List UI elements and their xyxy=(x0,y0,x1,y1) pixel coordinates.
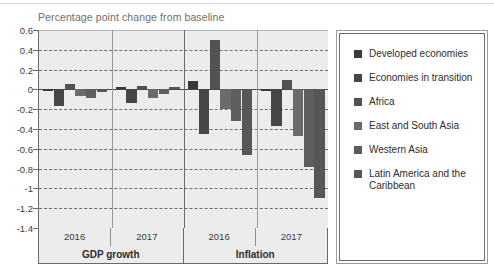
legend-item-label: Latin America and the Caribbean xyxy=(369,168,473,192)
y-axis-tick-label: -0.2 xyxy=(17,104,33,115)
legend-swatch-icon xyxy=(354,170,362,178)
bar xyxy=(65,84,75,89)
legend-item[interactable]: Western Asia xyxy=(354,144,473,156)
bar xyxy=(54,89,64,106)
bar xyxy=(75,89,85,96)
legend-swatch-icon xyxy=(354,50,362,58)
bar xyxy=(231,89,241,121)
legend-item[interactable]: Economies in transition xyxy=(354,72,473,84)
x-axis-group-2: 20162017Inflation xyxy=(183,228,328,263)
y-axis-tick-label: -1 xyxy=(25,183,33,194)
bar xyxy=(148,89,158,98)
y-axis-tick-label: -1.2 xyxy=(17,203,33,214)
y-axis: 0.60.40.20-0.2-0.4-0.6-0.8-1-1.2-1.4 xyxy=(0,30,33,228)
x-axis-year-label: 2016 xyxy=(184,228,255,246)
chart-figure: Percentage point change from baseline 0.… xyxy=(0,0,494,275)
legend-swatch-icon xyxy=(354,122,362,130)
legend-swatch-icon xyxy=(354,74,362,82)
x-axis-group-label: Inflation xyxy=(184,246,328,264)
legend-item-label: Developed economies xyxy=(369,48,468,60)
bar xyxy=(314,89,324,198)
x-axis-group-label: GDP growth xyxy=(39,246,183,264)
bar xyxy=(169,87,179,89)
legend-item[interactable]: East and South Asia xyxy=(354,120,473,132)
bar xyxy=(210,40,220,90)
x-axis-year-label: 2016 xyxy=(39,228,110,246)
legend-item[interactable]: Developed economies xyxy=(354,48,473,60)
chart-title: Percentage point change from baseline xyxy=(38,11,224,23)
bar xyxy=(282,80,292,90)
bar xyxy=(242,89,252,154)
legend-item-label: Africa xyxy=(369,96,395,108)
bar xyxy=(293,89,303,136)
y-axis-tick-label: -0.6 xyxy=(17,143,33,154)
legend-item-label: Western Asia xyxy=(369,144,428,156)
y-axis-tick-label: -0.4 xyxy=(17,124,33,135)
bar xyxy=(126,89,136,103)
x-axis-group-1: 20162017GDP growth xyxy=(39,228,183,263)
group-separator xyxy=(257,30,258,228)
bar xyxy=(261,89,271,90)
group-separator xyxy=(112,30,113,228)
x-axis-year-label: 2017 xyxy=(110,228,182,246)
bar xyxy=(97,89,107,92)
bar xyxy=(271,89,281,126)
y-axis-tick-label: -0.8 xyxy=(17,163,33,174)
legend-item[interactable]: Latin America and the Caribbean xyxy=(354,168,473,192)
bar xyxy=(304,89,314,166)
legend-swatch-icon xyxy=(354,98,362,106)
bar xyxy=(220,89,230,109)
legend-item-label: East and South Asia xyxy=(369,120,459,132)
y-axis-tick-label: 0.2 xyxy=(20,64,33,75)
legend-swatch-icon xyxy=(354,146,362,154)
bar xyxy=(43,89,53,90)
bar xyxy=(159,89,169,94)
y-axis-tick-label: -1.4 xyxy=(17,223,33,234)
bar xyxy=(188,81,198,89)
bar xyxy=(199,89,209,134)
x-axis: 20162017GDP growth20162017Inflation xyxy=(38,228,328,264)
legend: Developed economiesEconomies in transiti… xyxy=(336,30,488,264)
y-axis-tick-label: 0.4 xyxy=(20,44,33,55)
legend-item[interactable]: Africa xyxy=(354,96,473,108)
bar xyxy=(137,86,147,89)
plot-area xyxy=(38,30,328,228)
group-separator xyxy=(184,30,185,228)
legend-item-label: Economies in transition xyxy=(369,72,472,84)
y-axis-tick-label: 0.6 xyxy=(20,25,33,36)
top-rule xyxy=(0,3,494,4)
x-axis-year-label: 2017 xyxy=(255,228,327,246)
bar xyxy=(116,87,126,89)
bar xyxy=(86,89,96,98)
